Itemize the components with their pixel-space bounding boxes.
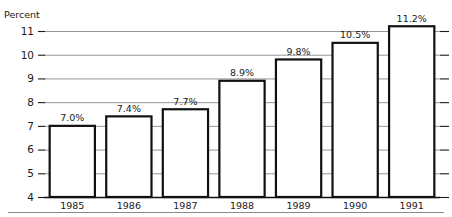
y-tick-label: 6 <box>27 143 34 155</box>
x-tick-label: 1986 <box>117 200 141 211</box>
bar <box>276 59 321 197</box>
y-tick-label: 4 <box>27 191 34 203</box>
y-tick-label: 10 <box>21 49 34 61</box>
x-axis-tick-labels: 1985198619871988198919901991 <box>60 200 424 211</box>
bar-value-label: 7.4% <box>117 103 141 114</box>
y-tick-label: 5 <box>27 167 34 179</box>
chart-canvas: Percent 4567891011 7.0%7.4%7.7%8.9%9.8%1… <box>0 0 452 217</box>
bar <box>106 116 151 197</box>
right-axis-tick-marks <box>440 32 449 198</box>
y-tick-label: 9 <box>27 72 34 84</box>
x-tick-label: 1988 <box>230 200 254 211</box>
bar <box>219 81 264 197</box>
y-tick-label: 8 <box>27 96 34 108</box>
bar-chart: Percent 4567891011 7.0%7.4%7.7%8.9%9.8%1… <box>0 0 452 217</box>
x-tick-label: 1989 <box>286 200 310 211</box>
bar-value-label: 11.2% <box>397 13 427 24</box>
y-tick-label: 11 <box>21 25 34 37</box>
y-tick-label: 7 <box>27 120 34 132</box>
bar <box>389 26 434 197</box>
y-axis-tick-labels: 4567891011 <box>21 25 35 203</box>
bar <box>333 43 378 197</box>
bar-value-label: 8.9% <box>230 67 254 78</box>
bar-value-label: 7.7% <box>173 96 197 107</box>
bar <box>50 126 95 197</box>
bar-series: 7.0%7.4%7.7%8.9%9.8%10.5%11.2% <box>50 13 435 197</box>
x-tick-label: 1991 <box>400 200 424 211</box>
x-tick-label: 1987 <box>173 200 197 211</box>
bar <box>163 109 208 197</box>
bar-value-label: 9.8% <box>287 46 311 57</box>
y-axis-title: Percent <box>4 9 40 20</box>
y-axis-tick-marks <box>38 32 45 198</box>
x-tick-label: 1990 <box>343 200 367 211</box>
bar-value-label: 7.0% <box>60 112 84 123</box>
x-tick-label: 1985 <box>60 200 84 211</box>
bar-value-label: 10.5% <box>340 29 370 40</box>
